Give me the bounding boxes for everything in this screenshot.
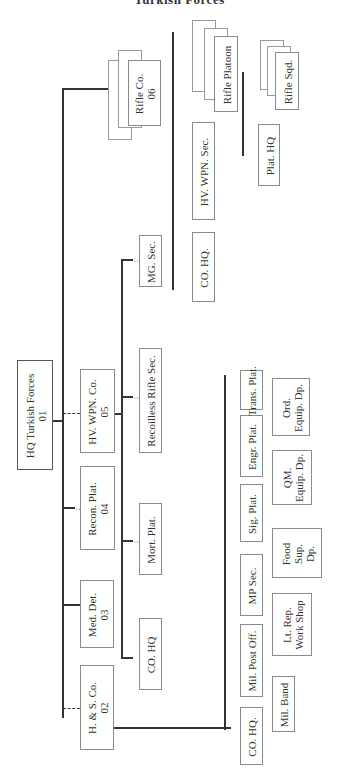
chart-title: Turkish Forces [0,0,359,8]
rifle-co-child-spine [172,32,174,290]
recon-dots: : [74,508,80,511]
recon-plat-box: Recon. Plat. 04 [80,466,115,550]
mort-plat-box: Mort. Plat. [139,503,162,575]
hq-label: HQ Turkish Forces [24,374,36,458]
hq-code: 01 [36,374,48,458]
ord-equip-dp-box: Ord. Equip. Dp. [272,378,310,436]
hs-co-connector [63,708,80,709]
mp-sec-box: MP Sec. [240,554,263,616]
food-sup-dp-box: Food Sup. Dp. [272,528,322,578]
rifle-hv-wpn-sec-box: HV. WPN. Sec. [192,122,215,220]
co-hq-box: CO. HQ [139,618,162,690]
hs-co-hq-box: CO. HQ. [240,707,263,765]
mg-sec-box: MG. Sec. [139,235,162,287]
sig-plat-box: Sig. Plat. [240,484,263,542]
hs-co-box: H. & S. Co. 02 [80,665,114,750]
mil-band-box: Mil. Band [272,676,295,732]
hv-wpn-child-spine [121,260,123,580]
main-spine [62,88,64,718]
rifle-co-hq-box: CO. HQ. [192,232,215,302]
med-det-connector [63,604,80,606]
med-det-box: Med. Det. 03 [80,580,114,648]
rifle-co-box: Rifle Co. 06 [128,60,161,126]
trans-plat-box: Trans. Plat. [240,370,263,410]
engr-plat-box: Engr. Plat. [240,415,263,477]
hq-connector [53,420,63,422]
hs-child-spine [224,375,226,730]
recoilless-rifle-sec-box: Recoilless Rifle Sec. [139,348,162,453]
hq-turkish-forces-box: HQ Turkish Forces 01 [17,360,53,470]
hv-wpn-connector [63,413,80,414]
plat-hq-box: Plat. HQ [258,124,280,186]
rifle-sqd-box: Rifle Sqd. [275,52,299,110]
qm-equip-dp-box: QM. Equip. Dp. [272,450,312,505]
rifle-platoon-box: Rifle Platoon [214,36,238,112]
lt-rep-workshop-box: Lt. Rep. Work Shop [272,593,312,656]
hv-wpn-co-box: HV. WPN. Co. 05 [80,369,115,453]
mil-post-off-box: Mil. Post Off. [240,624,263,697]
